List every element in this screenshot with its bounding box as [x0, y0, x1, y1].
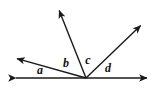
ray-upper-left	[17, 59, 86, 78]
diagram-strokes	[16, 11, 147, 79]
ray-upper-right	[86, 26, 141, 78]
angle-label-b: b	[63, 57, 69, 69]
angle-diagram-svg	[0, 0, 158, 89]
angle-label-d: d	[105, 62, 111, 74]
angle-label-a: a	[37, 64, 43, 76]
angle-diagram-figure: a b c d	[0, 0, 158, 89]
angle-label-c: c	[85, 54, 90, 66]
